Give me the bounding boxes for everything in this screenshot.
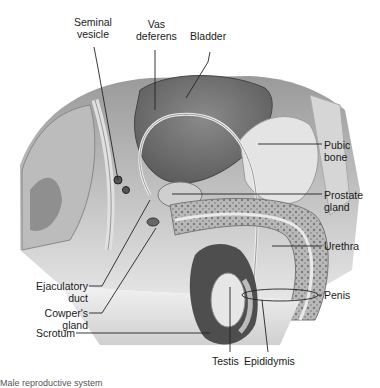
testis-shape <box>211 273 245 327</box>
label-prostate-gland: Prostate gland <box>324 189 363 213</box>
label-text: Testis <box>212 355 239 367</box>
label-text: Scrotum <box>36 327 75 339</box>
label-text: Epididymis <box>244 355 295 367</box>
label-text: Seminal vesicle <box>74 16 112 40</box>
label-vas-deferens: Vas deferens <box>136 18 177 42</box>
label-epididymis: Epididymis <box>244 355 295 367</box>
label-testis: Testis <box>212 355 239 367</box>
label-text: Penis <box>324 289 350 301</box>
label-penis: Penis <box>324 289 350 301</box>
label-scrotum: Scrotum <box>10 327 75 339</box>
label-ejaculatory-duct: Ejaculatory duct <box>10 280 88 304</box>
label-urethra: Urethra <box>324 240 359 252</box>
label-text: Pubic bone <box>324 139 350 163</box>
label-text: Bladder <box>190 30 226 42</box>
label-text: Prostate gland <box>324 189 363 213</box>
label-text: Vas deferens <box>136 18 177 42</box>
label-pubic-bone: Pubic bone <box>324 139 350 163</box>
label-text: Ejaculatory duct <box>36 280 88 304</box>
figure-caption: Male reproductive system <box>0 378 103 388</box>
label-bladder: Bladder <box>190 30 226 42</box>
label-text: Urethra <box>324 240 359 252</box>
label-seminal-vesicle: Seminal vesicle <box>74 16 112 40</box>
